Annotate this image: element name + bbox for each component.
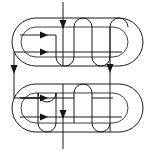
left-riser-group [11,52,45,98]
right-riser-group [107,27,114,132]
upper-outer-stadium [12,18,143,66]
lower-serpentine-path [20,84,110,132]
upper-coil-group [12,18,143,66]
upper-feed-arrow-icon [40,32,48,39]
right-riser-arrow-icon [107,64,114,73]
coil-flow-diagram [0,0,155,151]
inlet-group [60,2,67,66]
lower-feed-arrow-icon [40,95,48,102]
inlet-arrow-icon [60,20,67,29]
lower-outer-stadium [12,84,143,132]
upper-serpentine-path [20,18,128,66]
lower-return-arrow-icon [40,114,48,121]
outlet-arrow-icon [60,110,67,119]
lower-coil-group [12,84,143,132]
left-riser-arrow-icon [11,65,18,74]
upper-return-arrow-icon [40,49,48,56]
coil-diagram-canvas [0,0,155,151]
